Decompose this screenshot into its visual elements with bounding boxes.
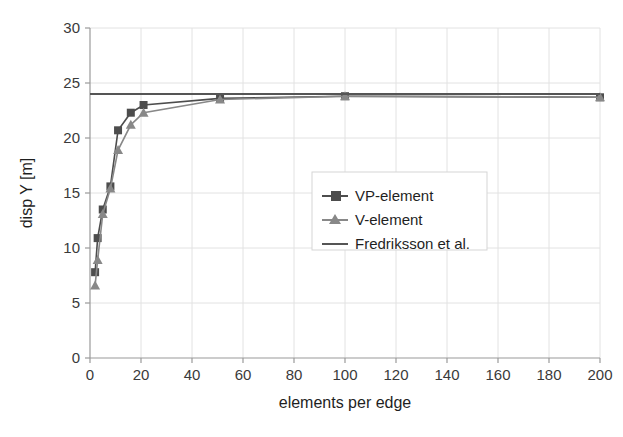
y-axis-title: disp Y [m] <box>18 158 35 229</box>
y-tick-label: 0 <box>72 349 80 366</box>
x-tick-label: 120 <box>383 366 408 383</box>
data-point-marker <box>114 126 122 134</box>
x-tick-label: 160 <box>485 366 510 383</box>
legend-label: Fredriksson et al. <box>355 235 470 252</box>
chart-legend: VP-elementV-elementFredriksson et al. <box>312 172 487 252</box>
y-tick-label: 20 <box>63 129 80 146</box>
legend-label: VP-element <box>355 187 434 204</box>
x-tick-label: 0 <box>86 366 94 383</box>
square-marker-icon <box>331 191 341 201</box>
x-axis-tick-labels: 020406080100120140160180200 <box>86 366 613 383</box>
legend-label: V-element <box>355 211 423 228</box>
convergence-line-chart: 051015202530 020406080100120140160180200… <box>0 0 623 437</box>
x-axis-ticks <box>90 358 600 363</box>
y-tick-label: 10 <box>63 239 80 256</box>
data-point-marker <box>91 268 99 276</box>
x-tick-label: 140 <box>434 366 459 383</box>
y-tick-label: 25 <box>63 74 80 91</box>
x-tick-label: 80 <box>286 366 303 383</box>
data-point-marker <box>127 109 135 117</box>
y-tick-label: 15 <box>63 184 80 201</box>
x-tick-label: 200 <box>587 366 612 383</box>
y-axis-ticks <box>85 28 90 358</box>
chart-container: 051015202530 020406080100120140160180200… <box>0 0 623 437</box>
x-tick-label: 60 <box>235 366 252 383</box>
y-tick-label: 5 <box>72 294 80 311</box>
x-tick-label: 100 <box>332 366 357 383</box>
y-axis-tick-labels: 051015202530 <box>63 19 80 366</box>
x-tick-label: 40 <box>184 366 201 383</box>
x-axis-title: elements per edge <box>279 394 412 411</box>
y-tick-label: 30 <box>63 19 80 36</box>
x-tick-label: 180 <box>536 366 561 383</box>
x-tick-label: 20 <box>133 366 150 383</box>
